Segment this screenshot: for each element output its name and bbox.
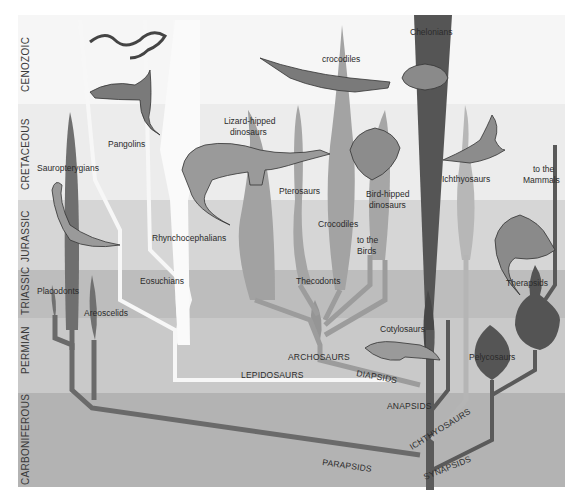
label-archosaurs: ARCHOSAURS — [288, 352, 350, 362]
label-to-mammals-1: to the — [533, 164, 555, 174]
label-cotylosaurs: Cotylosaurs — [380, 324, 425, 334]
period-label-cenozoic: CENOZOIC — [20, 37, 31, 92]
period-label-permian: PERMIAN — [20, 326, 31, 374]
label-to-birds-1: to the — [357, 235, 379, 245]
label-rhynchocephalians: Rhynchocephalians — [152, 233, 226, 243]
label-to-birds-2: Birds — [357, 246, 376, 256]
band-jurassic — [18, 200, 565, 270]
label-sauropterygians: Sauropterygians — [37, 163, 99, 173]
label-areoscelids: Areoscelids — [84, 308, 128, 318]
period-label-carboniferous: CARBONIFEROUS — [20, 394, 31, 485]
label-thecodonts: Thecodonts — [296, 276, 340, 286]
period-bands — [18, 15, 565, 487]
label-bird-hipped-2: dinosaurs — [369, 200, 406, 210]
label-placodonts: Placodonts — [37, 286, 79, 296]
label-crocodiles: Crocodiles — [318, 219, 358, 229]
label-pangolins: Pangolins — [108, 139, 145, 149]
label-to-mammals-2: Mammals — [523, 175, 560, 185]
label-lizard-hipped-2: dinosaurs — [230, 127, 267, 137]
period-label-cretaceous: CRETACEOUS — [20, 118, 31, 190]
period-label-jurassic: JURASSIC — [20, 210, 31, 262]
label-ichthyosaurs: Ichthyosaurs — [442, 174, 490, 184]
label-lizard-hipped-1: Lizard-hipped — [224, 116, 276, 126]
label-eosuchians: Eosuchians — [140, 276, 184, 286]
reptile-evolution-diagram: CENOZOIC CRETACEOUS JURASSIC TRIASSIC PE… — [0, 0, 577, 499]
label-crocodiles-modern: crocodiles — [322, 54, 360, 64]
label-pelycosaurs: Pelycosaurs — [469, 352, 515, 362]
label-lepidosaurs: LEPIDOSAURS — [241, 370, 304, 380]
label-bird-hipped-1: Bird-hipped — [366, 189, 410, 199]
label-anapsids: ANAPSIDS — [387, 401, 432, 411]
label-pterosaurs: Pterosaurs — [279, 186, 320, 196]
label-chelonians: Chelonians — [410, 27, 453, 37]
period-label-triassic: TRIASSIC — [20, 266, 31, 315]
label-therapsids: Therapsids — [506, 278, 548, 288]
